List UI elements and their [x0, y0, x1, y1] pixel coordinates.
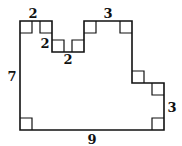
label-top-right: 3 — [103, 6, 112, 21]
polygon-diagram: 2 2 2 3 7 3 9 — [0, 0, 182, 146]
label-left-side: 7 — [7, 69, 16, 84]
label-notch-width: 2 — [63, 52, 72, 67]
label-notch-depth: 2 — [40, 36, 49, 51]
label-bottom: 9 — [87, 132, 96, 146]
label-top-left: 2 — [28, 6, 37, 21]
label-right-step: 3 — [167, 100, 176, 115]
